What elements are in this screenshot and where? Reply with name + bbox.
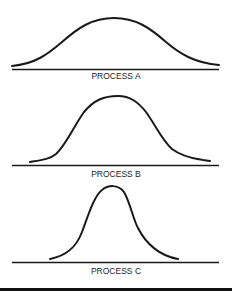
panel-process-b [12, 96, 219, 166]
panel-process-c [12, 186, 219, 262]
panel-process-a [12, 18, 219, 70]
curve-process-c [50, 186, 178, 259]
label-process-b: PROCESS B [0, 169, 232, 179]
curve-process-a [12, 18, 219, 66]
label-process-a: PROCESS A [0, 71, 232, 81]
distribution-diagram [0, 0, 232, 291]
label-process-c: PROCESS C [0, 266, 232, 276]
curve-process-b [30, 96, 210, 162]
